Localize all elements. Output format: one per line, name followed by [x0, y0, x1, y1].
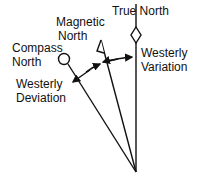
compass-north-circle-icon	[59, 54, 70, 65]
true-north-label: True North	[112, 5, 169, 18]
true-north-diamond-icon	[131, 27, 141, 43]
westerly-deviation-label-line1: Westerly	[16, 78, 62, 91]
compass-north-label-line1: Compass	[12, 42, 63, 55]
magnetic-north-label-line1: Magnetic	[56, 16, 105, 29]
westerly-variation-label-line2: Variation	[141, 61, 187, 74]
magnetic-north-line	[101, 40, 136, 172]
compass-north-line	[68, 64, 136, 172]
variation-arc	[106, 57, 132, 62]
westerly-variation-label-line1: Westerly	[141, 47, 187, 60]
compass-north-label-line2: North	[12, 56, 41, 69]
westerly-deviation-label-line2: Deviation	[16, 92, 66, 105]
